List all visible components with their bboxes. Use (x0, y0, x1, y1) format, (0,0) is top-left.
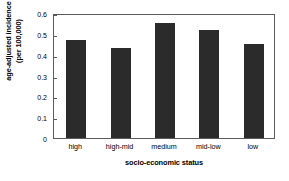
plot-inner (54, 15, 274, 138)
y-axis-title-line-1: age-adjusted incidence (4, 0, 14, 106)
y-axis-tick-label: 0.5 (37, 31, 47, 38)
y-axis-tick-mark (54, 15, 57, 16)
y-axis-tick-label: 0 (43, 136, 47, 143)
bar (66, 40, 86, 138)
y-axis-tick-mark (54, 119, 57, 120)
y-axis-tick-label: 0.3 (37, 73, 47, 80)
y-axis-tick-label: 0.1 (37, 115, 47, 122)
plot-area (53, 14, 275, 139)
x-axis-tick-labels: highhigh-midmediummid-lowlow (53, 142, 275, 154)
y-axis-tick-mark (54, 57, 57, 58)
y-axis-title-line-2: (per 100,000) (14, 0, 24, 106)
y-axis-tick-label: 0.6 (37, 11, 47, 18)
x-axis-tick-label: medium (151, 142, 177, 151)
y-axis-tick-mark (54, 36, 57, 37)
x-axis-tick-label: high (68, 142, 82, 151)
x-axis-title: socio-economic status (53, 158, 275, 167)
bar (244, 44, 264, 138)
bar (111, 48, 131, 138)
x-axis-tick-label: mid-low (196, 142, 221, 151)
x-axis-tick-label: high-mid (106, 142, 134, 151)
y-axis-title: age-adjusted incidence (per 100,000) (4, 0, 30, 106)
y-axis-tick-labels: 00.10.20.30.40.50.6 (30, 14, 50, 139)
x-axis-tick-label: low (247, 142, 258, 151)
y-axis-tick-label: 0.2 (37, 94, 47, 101)
y-axis-tick-label: 0.4 (37, 52, 47, 59)
y-axis-tick-mark (54, 98, 57, 99)
bar (199, 30, 219, 138)
y-axis-tick-mark (54, 78, 57, 79)
bar (155, 23, 175, 138)
bar-chart-figure: age-adjusted incidence (per 100,000) 00.… (0, 0, 289, 181)
